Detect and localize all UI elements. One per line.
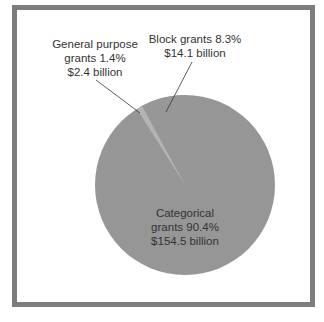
label-general-line2: grants 1.4% [64,52,125,64]
label-general-line1: General purpose [52,38,138,50]
label-block-line2: $14.1 billion [164,47,225,59]
label-categorical-line2: grants 90.4% [151,221,219,233]
label-block-line1: Block grants 8.3% [149,33,242,45]
label-categorical-line3: $154.5 billion [151,235,219,247]
label-categorical-line1: Categorical [156,207,214,219]
leader-line-general [96,80,140,113]
label-general-line3: $2.4 billion [68,66,123,78]
pie-chart: General purpose grants 1.4% $2.4 billion… [0,0,324,322]
